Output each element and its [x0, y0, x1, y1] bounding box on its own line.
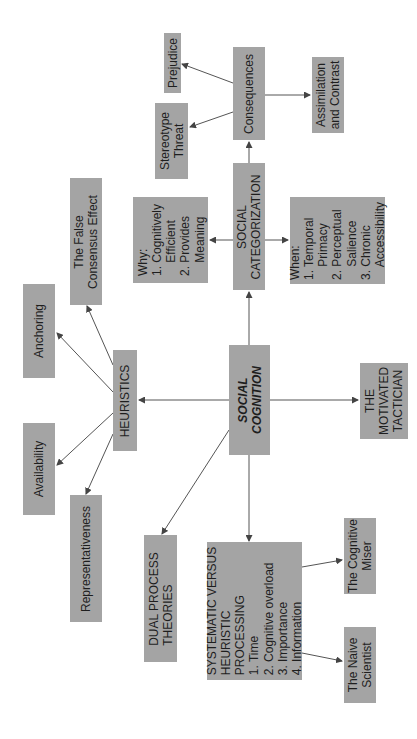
- node-false-consensus: The False Consensus Effect: [70, 178, 102, 305]
- node-cognitive-miser: The Cognitive Miser: [344, 518, 376, 594]
- node-assimilation-contrast-label: Assimilation and Contrast: [314, 61, 342, 130]
- node-representativeness: Representativeness: [70, 495, 102, 622]
- node-representativeness-label: Representativeness: [79, 505, 93, 611]
- node-heuristics: HEURISTICS: [113, 350, 137, 451]
- edge-heuristics-anchoring: [57, 333, 113, 392]
- node-motivated-tactician-label: THE MOTIVATED TACTICIAN: [363, 367, 405, 435]
- node-naive-scientist: The Naive Scientist: [344, 627, 376, 703]
- node-naive-scientist-label: The Naive Scientist: [346, 638, 374, 693]
- edge-cognition-dualprocess: [162, 430, 229, 534]
- node-social-categorization-label: SOCIAL CATEGORIZATION: [235, 174, 263, 279]
- node-anchoring: Anchoring: [23, 284, 55, 378]
- node-false-consensus-label: The False Consensus Effect: [72, 195, 100, 289]
- node-when-label: When: 1. Temporal Primacy 2. Perceptual …: [288, 201, 387, 279]
- node-social-categorization: SOCIAL CATEGORIZATION: [233, 163, 265, 290]
- node-social-cognition-label: SOCIAL COGNITION: [235, 366, 263, 434]
- node-prejudice: Prejudice: [164, 33, 181, 93]
- node-motivated-tactician: THE MOTIVATED TACTICIAN: [360, 363, 408, 439]
- node-why-label: Why: 1. Cognitively Efficient 2. Provide…: [135, 204, 206, 276]
- node-social-cognition: SOCIAL COGNITION: [229, 345, 270, 455]
- node-cognitive-miser-label: The Cognitive Miser: [346, 519, 374, 593]
- node-stereotype-threat: Stereotype Threat: [155, 103, 188, 179]
- node-systematic-heuristic: SYSTEMATIC VERSUS HEURISTIC PROCESSING 1…: [207, 542, 302, 680]
- node-why: Why: 1. Cognitively Efficient 2. Provide…: [133, 197, 208, 283]
- node-dual-process: DUAL PROCESS THEORIES: [144, 535, 177, 662]
- node-systematic-heuristic-label: SYSTEMATIC VERSUS HEURISTIC PROCESSING 1…: [205, 547, 304, 675]
- edge-heuristics-representativeness: [86, 434, 113, 494]
- edge-consequences-stereotype: [190, 112, 233, 127]
- node-assimilation-contrast: Assimilation and Contrast: [312, 57, 344, 133]
- node-when: When: 1. Temporal Primacy 2. Perceptual …: [290, 197, 385, 284]
- edge-systematic-miser: [302, 560, 342, 567]
- node-availability-label: Availability: [32, 441, 46, 497]
- edge-systematic-scientist: [302, 653, 342, 661]
- edge-heuristics-availability: [57, 413, 113, 465]
- edge-heuristics-falseconsensus: [87, 306, 113, 365]
- node-consequences-label: Consequences: [242, 53, 256, 133]
- node-prejudice-label: Prejudice: [165, 38, 179, 88]
- edge-consequences-prejudice: [182, 64, 233, 83]
- node-availability: Availability: [23, 423, 55, 515]
- node-consequences: Consequences: [233, 47, 265, 140]
- node-dual-process-label: DUAL PROCESS THEORIES: [146, 552, 174, 646]
- node-anchoring-label: Anchoring: [32, 304, 46, 358]
- node-stereotype-threat-label: Stereotype Threat: [157, 112, 185, 170]
- node-heuristics-label: HEURISTICS: [118, 364, 132, 437]
